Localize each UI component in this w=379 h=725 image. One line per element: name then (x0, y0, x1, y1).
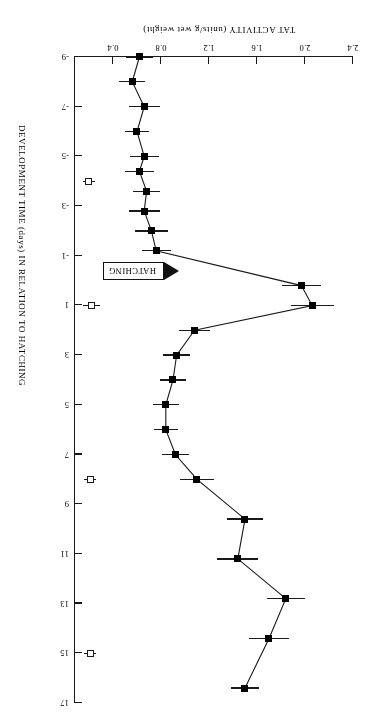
data-point-filled (141, 208, 148, 215)
hatching-arrow-icon (164, 262, 179, 280)
data-point-filled (136, 54, 143, 61)
data-point-filled (234, 555, 241, 562)
data-point-filled (309, 302, 316, 309)
series-polyline (0, 0, 379, 725)
time-axis-title: DEVELOPMENT TIME (days) IN RELATION TO H… (17, 125, 27, 386)
data-point-open (87, 650, 94, 657)
data-point-filled (162, 426, 169, 433)
data-point-open (86, 178, 93, 185)
data-point-filled (242, 685, 249, 692)
data-point-filled (134, 128, 141, 135)
data-point-filled (191, 327, 198, 334)
data-point-filled (136, 168, 143, 175)
data-point-filled (148, 227, 155, 234)
data-point-filled (162, 401, 169, 408)
hatching-label: HATCHING (103, 262, 164, 280)
data-point-filled (153, 247, 160, 254)
data-point-filled (172, 451, 179, 458)
data-point-filled (141, 153, 148, 160)
data-point-open (88, 302, 95, 309)
hatching-annotation: HATCHING (103, 262, 179, 280)
data-point-filled (170, 377, 177, 384)
data-point-filled (141, 103, 148, 110)
value-axis-title: TAT ACTIVITY (units/g wet weight) (143, 25, 295, 35)
data-point-filled (194, 476, 201, 483)
data-point-filled (143, 188, 150, 195)
data-point-filled (266, 635, 273, 642)
data-point-open (87, 476, 94, 483)
data-point-filled (282, 595, 289, 602)
data-point-filled (298, 282, 305, 289)
chart-figure: 0.40.81.21.62.02.4-9-7-5-3-1135791113151… (0, 0, 379, 725)
data-point-filled (173, 352, 180, 359)
data-point-filled (242, 516, 249, 523)
data-point-filled (129, 78, 136, 85)
plot-area: 0.40.81.21.62.02.4-9-7-5-3-1135791113151… (0, 0, 379, 725)
